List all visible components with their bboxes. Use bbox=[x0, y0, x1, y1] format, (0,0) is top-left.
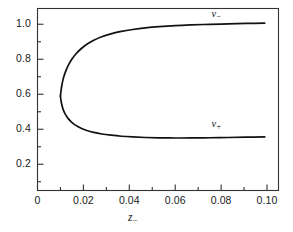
x-tick-label: 0.10 bbox=[250, 194, 284, 206]
x-tick-label: 0.08 bbox=[204, 194, 238, 206]
x-axis-title-subscript: − bbox=[132, 216, 137, 225]
x-tick-label: 0.06 bbox=[158, 194, 192, 206]
x-axis-title: z− bbox=[128, 211, 138, 225]
x-tick-label: 0.02 bbox=[66, 194, 100, 206]
axes-frame bbox=[38, 9, 279, 191]
y-tick-label: 0.2 bbox=[5, 157, 31, 169]
x-tick-label: 0 bbox=[21, 194, 55, 206]
y-tick-label: 1.0 bbox=[5, 17, 31, 29]
y-tick-label: 0.6 bbox=[5, 87, 31, 99]
figure-container: 0.20.40.60.81.0 00.020.040.060.080.10 v−… bbox=[0, 0, 293, 232]
curve-v-plus bbox=[60, 96, 264, 138]
y-tick-label: 0.8 bbox=[5, 52, 31, 64]
upper-branch-label-subscript: − bbox=[216, 12, 221, 21]
upper-branch-label: v− bbox=[211, 8, 221, 21]
lower-branch-label: v+ bbox=[211, 118, 221, 131]
axis-ticks bbox=[38, 24, 268, 190]
curve-v-minus bbox=[60, 23, 264, 96]
data-curves bbox=[60, 23, 264, 138]
lower-branch-label-subscript: + bbox=[216, 122, 221, 131]
x-tick-label: 0.04 bbox=[112, 194, 146, 206]
plot-frame bbox=[38, 9, 279, 191]
y-tick-label: 0.4 bbox=[5, 122, 31, 134]
